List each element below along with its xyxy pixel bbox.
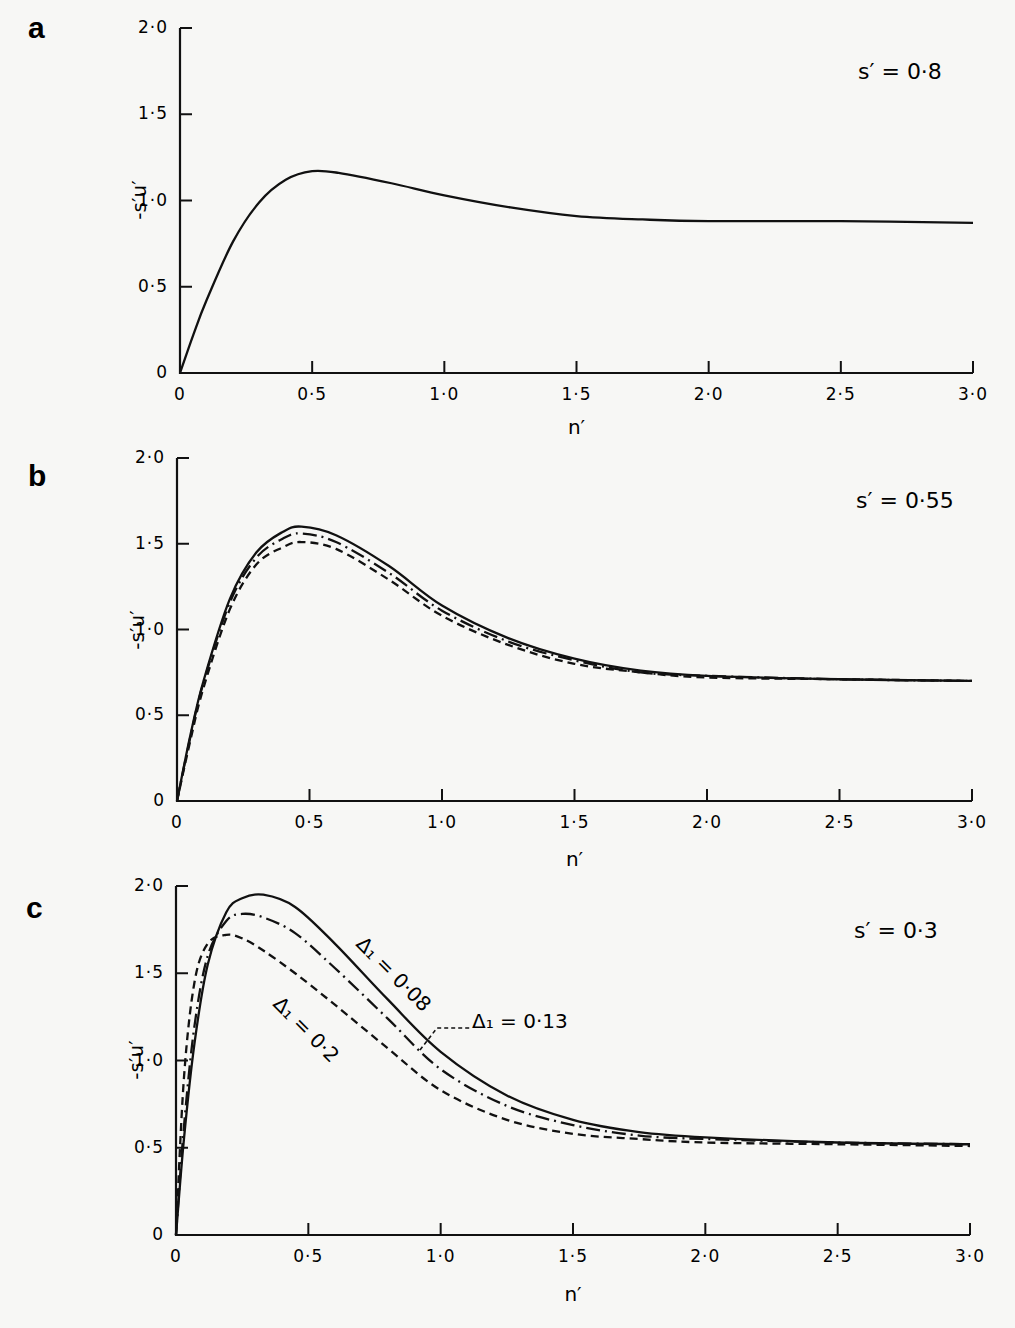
x-tick-label: 1·0 [427,812,457,832]
x-axis-title: n′ [568,415,586,439]
series-line-dashed [176,935,970,1235]
figure-canvas: a00·51·01·52·000·51·01·52·02·53·0-s′u′n′… [0,0,1015,1328]
axes [176,886,970,1235]
y-tick-label: 1·5 [134,962,164,982]
parameter-label: s′ = 0·55 [856,488,954,513]
x-tick-label: 2·0 [692,812,722,832]
annotation-delta-0-13: Δ₁ = 0·13 [472,1009,568,1033]
x-tick-label: 0·5 [294,812,324,832]
x-tick-label: 2·5 [823,1246,853,1266]
series-line-solid [180,171,973,373]
x-tick-label: 2·5 [826,384,856,404]
x-tick-label: 1·5 [561,384,591,404]
x-tick-label: 1·5 [559,812,589,832]
y-tick-label: 0·5 [135,704,165,724]
x-tick-label: 1·0 [426,1246,456,1266]
x-axis-title: n′ [564,1282,582,1306]
panel-b: b00·51·01·52·000·51·01·52·02·53·0-s′u′n′… [28,447,987,871]
axes [180,28,973,373]
x-tick-label: 2·5 [824,812,854,832]
y-tick-label: 1·5 [138,103,168,123]
x-tick-label: 0 [170,1246,182,1266]
panel-letter: a [28,11,45,44]
y-axis-title: -s′u′ [127,180,151,220]
series-line-dashdot [177,533,972,801]
series-line-solid [176,894,970,1235]
y-tick-label: 2·0 [135,447,165,467]
parameter-label: s′ = 0·8 [858,59,942,84]
x-tick-label: 0 [174,384,186,404]
series-line-dashed [177,542,972,801]
panel-c: c00·51·01·52·000·51·01·52·02·53·0-s′u′n′… [26,875,985,1306]
y-tick-label: 0·5 [134,1137,164,1157]
x-axis-title: n′ [566,847,584,871]
x-tick-label: 0·5 [293,1246,323,1266]
y-tick-label: 0 [156,362,168,382]
y-tick-label: 1·5 [135,533,165,553]
y-tick-label: 2·0 [138,17,168,37]
y-tick-label: 0 [152,1224,164,1244]
x-tick-label: 1·5 [558,1246,588,1266]
x-tick-label: 1·0 [429,384,459,404]
panel-letter: c [26,891,43,924]
y-tick-label: 2·0 [134,875,164,895]
x-tick-label: 3·0 [957,812,987,832]
y-tick-label: 0 [153,790,165,810]
axes [177,458,972,801]
x-tick-label: 3·0 [958,384,988,404]
x-tick-label: 2·0 [694,384,724,404]
x-tick-label: 0·5 [297,384,327,404]
y-axis-title: -s′u′ [124,1040,148,1080]
x-tick-label: 3·0 [955,1246,985,1266]
panel-a: a00·51·01·52·000·51·01·52·02·53·0-s′u′n′… [28,11,988,439]
y-tick-label: 0·5 [138,276,168,296]
x-tick-label: 2·0 [690,1246,720,1266]
series-line-dashdot [176,914,970,1235]
panel-letter: b [28,459,46,492]
parameter-label: s′ = 0·3 [854,918,938,943]
x-tick-label: 0 [171,812,183,832]
y-axis-title: -s′u′ [125,610,149,650]
